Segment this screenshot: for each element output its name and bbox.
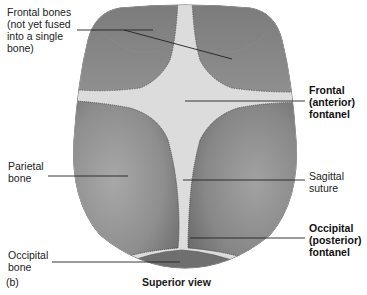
figure-caption: Superior view (142, 276, 211, 288)
label-occipital-bone: Occipital bone (8, 249, 48, 273)
label-occipital-fontanel: Occipital (posterior) fontanel (309, 222, 362, 258)
label-frontal-fontanel: Frontal (anterior) fontanel (309, 84, 355, 120)
label-sagittal-suture: Sagittal suture (309, 170, 344, 194)
label-frontal-bones: Frontal bones (not yet fused into a sing… (7, 6, 71, 54)
panel-letter: (b) (6, 276, 19, 288)
label-parietal-bone: Parietal bone (8, 160, 44, 184)
